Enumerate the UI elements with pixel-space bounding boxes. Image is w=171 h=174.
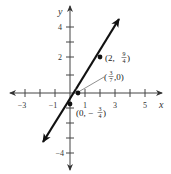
- svg-text:3: 3: [99, 106, 102, 112]
- svg-text:4: 4: [123, 58, 126, 64]
- svg-text:3: 3: [110, 70, 113, 76]
- leader-line: [80, 77, 104, 91]
- line-graph: −3 −1 1 3 5 4 2 −4 x y (2, 9 4 ) ( 3 7 ,…: [0, 0, 171, 174]
- x-axis: [10, 89, 162, 97]
- svg-text:): ): [127, 53, 130, 63]
- label-point-2-9-4: (2, 9 4 ): [105, 51, 130, 64]
- svg-text:(: (: [104, 72, 107, 82]
- svg-text:,0): ,0): [114, 72, 124, 82]
- svg-text:7: 7: [110, 77, 113, 83]
- y-axis: [66, 6, 74, 170]
- svg-text:(0, −: (0, −: [76, 108, 93, 118]
- y-tick-label: 2: [58, 53, 62, 62]
- y-tick-label: −4: [55, 149, 64, 158]
- x-axis-label: x: [158, 99, 164, 110]
- point-2-9-4: [98, 55, 103, 60]
- point-x-intercept: [76, 91, 81, 96]
- svg-text:(2,: (2,: [105, 53, 115, 63]
- label-y-intercept: (0, − 3 4 ): [76, 106, 106, 119]
- plotted-line: [43, 19, 119, 142]
- x-tick-label: −1: [49, 101, 58, 110]
- x-tick-label: 3: [113, 101, 117, 110]
- svg-text:): ): [103, 108, 106, 118]
- x-tick-label: −3: [18, 101, 27, 110]
- svg-text:4: 4: [99, 113, 102, 119]
- point-y-intercept: [68, 102, 73, 107]
- y-tick-label: 4: [58, 23, 62, 32]
- label-x-intercept: ( 3 7 ,0): [104, 70, 124, 83]
- y-axis-label: y: [57, 6, 63, 17]
- x-tick-label: 5: [143, 101, 147, 110]
- svg-text:9: 9: [123, 51, 126, 57]
